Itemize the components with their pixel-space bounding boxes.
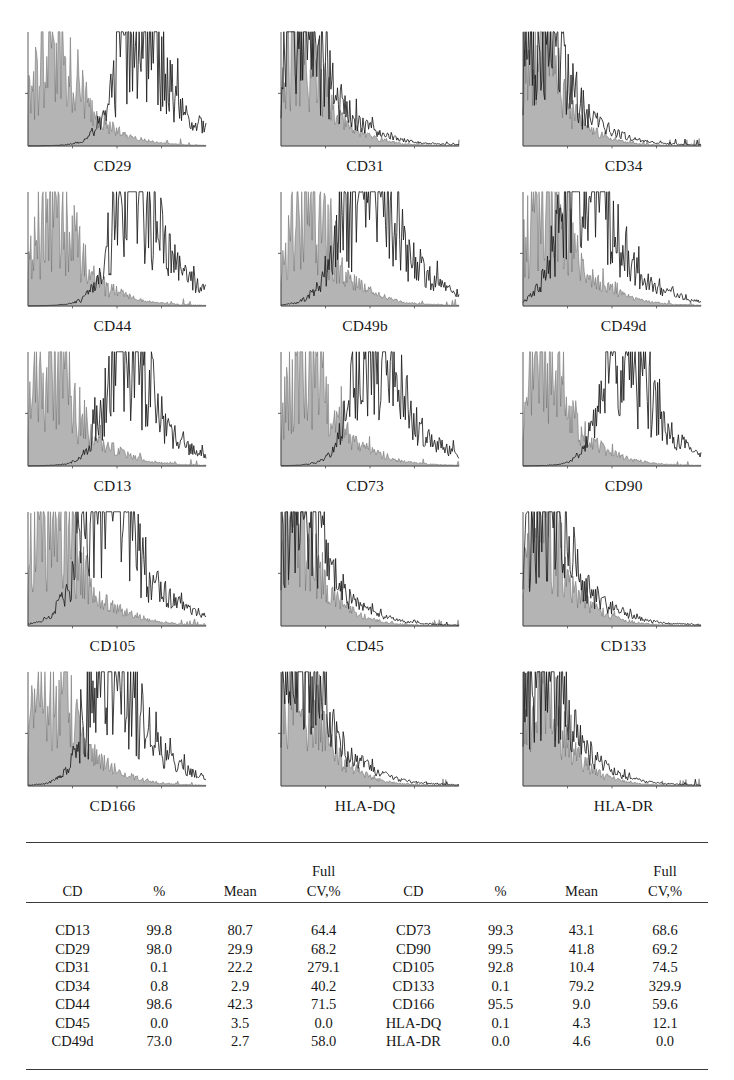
table-row-6-cell-5: 0.0 [460, 1032, 541, 1051]
isotype-control-trace [28, 512, 206, 626]
table-row: CD1399.880.764.4CD7399.343.168.6 [26, 921, 708, 940]
table-row-3-cell-1: 0.8 [119, 977, 200, 996]
table-row-4-cell-3: 71.5 [281, 995, 367, 1014]
histogram-panel-cd73: CD73 [245, 346, 490, 506]
table-row: CD450.03.50.0HLA-DQ0.14.312.1 [26, 1014, 708, 1033]
table-row-3-cell-3: 40.2 [281, 977, 367, 996]
table-row-4-cell-5: 95.5 [460, 995, 541, 1014]
table-row-3-cell-6: 79.2 [541, 977, 622, 996]
table-row-1-cell-2: 29.9 [200, 940, 281, 959]
histogram-panel-label: CD105 [0, 636, 225, 656]
histogram-plot-area [275, 670, 463, 792]
table-header-upper-cell-4 [367, 862, 461, 881]
table-row: CD340.82.940.2CD1330.179.2329.9 [26, 977, 708, 996]
table-row-0-cell-1: 99.8 [119, 921, 200, 940]
histogram-plot-area [517, 30, 705, 152]
table-row-4-cell-7: 59.6 [622, 995, 708, 1014]
table-row: CD49d73.02.758.0HLA-DR0.04.60.0 [26, 1032, 708, 1051]
table-row-4-cell-0: CD44 [26, 995, 119, 1014]
table-row-2-cell-0: CD31 [26, 958, 119, 977]
histogram-plot-area [22, 510, 210, 632]
table-row-5-cell-4: HLA-DQ [367, 1014, 461, 1033]
histogram-panel-hla-dq: HLA-DQ [245, 666, 490, 826]
table-row-6-cell-2: 2.7 [200, 1032, 281, 1051]
table-row-1-cell-0: CD29 [26, 940, 119, 959]
histogram-panel-row: CD105CD45CD133 [0, 506, 734, 666]
table-header-lower-cell-7: CV,% [622, 881, 708, 903]
histogram-panel-label: HLA-DQ [253, 796, 478, 816]
table-row-6-cell-4: HLA-DR [367, 1032, 461, 1051]
table-header-lower-cell-5: % [460, 881, 541, 903]
table-header-upper-cell-3: Full [281, 862, 367, 881]
table-row-5-cell-0: CD45 [26, 1014, 119, 1033]
table-foot [26, 1051, 708, 1080]
histogram-plot-area [517, 190, 705, 312]
table-row-4-cell-1: 98.6 [119, 995, 200, 1014]
table-header-upper-cell-0 [26, 862, 119, 881]
table-header-lower-cell-2: Mean [200, 881, 281, 903]
histogram-panel-cd105: CD105 [0, 506, 245, 666]
histogram-panel-row: CD44CD49bCD49d [0, 186, 734, 346]
histogram-panel-label: CD49b [253, 316, 478, 336]
histogram-plot-area [517, 670, 705, 792]
table-row-4-cell-2: 42.3 [200, 995, 281, 1014]
histogram-panel-cd90: CD90 [489, 346, 734, 506]
table-header-lower-cell-6: Mean [541, 881, 622, 903]
table-head: FullFull CD%MeanCV,%CD%MeanCV,% [26, 843, 708, 922]
histogram-panel-cd49b: CD49b [245, 186, 490, 346]
table-row-3-cell-2: 2.9 [200, 977, 281, 996]
histogram-panel-cd31: CD31 [245, 26, 490, 186]
table-header-lower-cell-0: CD [26, 881, 119, 903]
table-row: CD2998.029.968.2CD9099.541.869.2 [26, 940, 708, 959]
histogram-panel-cd133: CD133 [489, 506, 734, 666]
histogram-panel-cd13: CD13 [0, 346, 245, 506]
histogram-panel-label: CD45 [253, 636, 478, 656]
table-row-2-cell-6: 10.4 [541, 958, 622, 977]
table-row-3-cell-7: 329.9 [622, 977, 708, 996]
histogram-plot-area [275, 510, 463, 632]
histogram-panel-label: CD29 [0, 156, 225, 176]
histogram-panel-label: CD90 [511, 476, 734, 496]
table-row-5-cell-1: 0.0 [119, 1014, 200, 1033]
table-header-upper-cell-6 [541, 862, 622, 881]
table-row-5-cell-2: 3.5 [200, 1014, 281, 1033]
histogram-panel-grid: CD29CD31CD34CD44CD49bCD49dCD13CD73CD90CD… [0, 26, 734, 826]
isotype-control-trace [523, 192, 701, 306]
table-row-0-cell-0: CD13 [26, 921, 119, 940]
histogram-plot-area [22, 670, 210, 792]
table-row-4-cell-4: CD166 [367, 995, 461, 1014]
table-header-upper-cell-7: Full [622, 862, 708, 881]
table-row-1-cell-1: 98.0 [119, 940, 200, 959]
histogram-panel-cd44: CD44 [0, 186, 245, 346]
histogram-panel-cd29: CD29 [0, 26, 245, 186]
histogram-plot-area [22, 190, 210, 312]
table-row-3-cell-0: CD34 [26, 977, 119, 996]
table-row-2-cell-3: 279.1 [281, 958, 367, 977]
table-row-6-cell-1: 73.0 [119, 1032, 200, 1051]
table-row-2-cell-2: 22.2 [200, 958, 281, 977]
marker-statistics-table-wrapper: FullFull CD%MeanCV,%CD%MeanCV,% CD1399.8… [26, 842, 708, 1080]
table-row-5-cell-7: 12.1 [622, 1014, 708, 1033]
histogram-plot-area [275, 350, 463, 472]
histogram-plot-area [517, 510, 705, 632]
table-row-1-cell-3: 68.2 [281, 940, 367, 959]
table-header-row-upper: FullFull [26, 862, 708, 881]
table-row-1-cell-7: 69.2 [622, 940, 708, 959]
table-row-5-cell-6: 4.3 [541, 1014, 622, 1033]
table-header-lower-cell-3: CV,% [281, 881, 367, 903]
table-row-6-cell-6: 4.6 [541, 1032, 622, 1051]
isotype-control-trace [28, 32, 206, 146]
table-row: CD310.122.2279.1CD10592.810.474.5 [26, 958, 708, 977]
table-row-3-cell-4: CD133 [367, 977, 461, 996]
histogram-plot-area [22, 350, 210, 472]
table-footer-spacer [26, 1051, 708, 1070]
table-row-0-cell-5: 99.3 [460, 921, 541, 940]
histogram-panel-label: CD31 [253, 156, 478, 176]
histogram-panel-label: CD133 [511, 636, 734, 656]
histogram-panel-label: CD44 [0, 316, 225, 336]
table-row-2-cell-1: 0.1 [119, 958, 200, 977]
histogram-panel-row: CD29CD31CD34 [0, 26, 734, 186]
histogram-panel-cd166: CD166 [0, 666, 245, 826]
table-row-0-cell-7: 68.6 [622, 921, 708, 940]
histogram-panel-row: CD13CD73CD90 [0, 346, 734, 506]
